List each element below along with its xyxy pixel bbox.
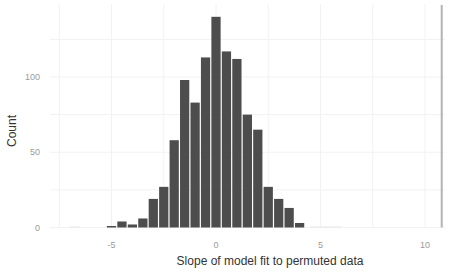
histogram-bar <box>201 57 210 227</box>
histogram-bar <box>190 103 199 228</box>
y-axis-title: Count <box>5 114 19 147</box>
histogram-bar <box>232 59 241 228</box>
histogram-bar <box>295 223 304 228</box>
x-axis-title: Slope of model fit to permuted data <box>177 254 364 268</box>
histogram-bar <box>274 199 283 228</box>
histogram-bar <box>222 51 231 227</box>
histogram-bar <box>285 208 294 228</box>
histogram-bar <box>128 224 137 227</box>
histogram-bar <box>243 115 252 228</box>
histogram-bar <box>211 17 220 228</box>
y-axis-ticks: 050100 <box>25 72 40 233</box>
x-axis-ticks: -50510 <box>107 240 430 250</box>
y-tick-label: 100 <box>25 72 40 82</box>
histogram-bar <box>159 187 168 228</box>
histogram-bar <box>107 226 116 228</box>
histogram-bar <box>138 218 147 227</box>
histogram-bar <box>253 130 262 228</box>
histogram-bar <box>170 140 179 227</box>
x-tick-label: 5 <box>318 240 323 250</box>
y-tick-label: 50 <box>30 147 40 157</box>
x-tick-label: -5 <box>107 240 115 250</box>
histogram-bar <box>180 80 189 227</box>
histogram-chart: 050100 -50510 Count Slope of model fit t… <box>0 0 450 276</box>
histogram-bar <box>117 221 126 227</box>
histogram-bar <box>264 187 273 228</box>
histogram-bars <box>70 17 342 228</box>
histogram-bar <box>149 199 158 228</box>
y-tick-label: 0 <box>35 223 40 233</box>
x-tick-label: 0 <box>213 240 218 250</box>
x-tick-label: 10 <box>420 240 430 250</box>
